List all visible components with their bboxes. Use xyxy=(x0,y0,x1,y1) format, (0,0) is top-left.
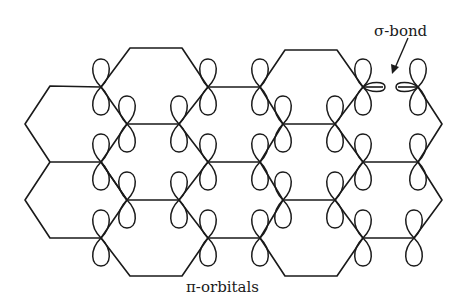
graphene-lattice xyxy=(0,0,465,308)
sigma-bond-arrow xyxy=(391,38,408,74)
sigma-bond-label: σ-bond xyxy=(374,22,427,40)
pi-orbitals-label: π-orbitals xyxy=(186,278,259,296)
diagram-canvas: σ-bond π-orbitals xyxy=(0,0,465,308)
